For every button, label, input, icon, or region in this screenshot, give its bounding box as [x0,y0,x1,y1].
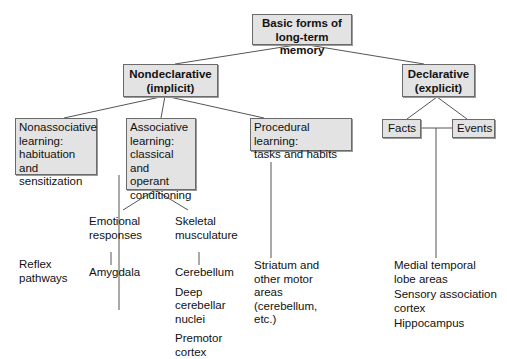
structure-label: cortex [394,302,497,316]
declarative-node: Declarative (explicit) [402,64,475,97]
nondeclarative-node: Nondeclarative (implicit) [123,64,218,97]
node-label: learning: [130,135,192,149]
structure-label: lobe areas [394,273,497,287]
node-label: sensitization [19,175,93,189]
reflex-pathways-text: Reflex pathways [19,258,68,285]
structure-label: Hippocampus [394,317,497,331]
striatum-text: Striatum and other motor areas (cerebell… [254,259,319,327]
structure-label: Amygdala [89,266,140,280]
structure-label: cerebellar [175,299,234,313]
node-label: Basic forms of [253,17,351,31]
node-label: learning: [19,135,93,149]
node-label: operant [130,175,192,189]
declarative-structures-text: Medial temporal lobe areas Sensory assoc… [394,259,497,331]
structure-label: (cerebellum, [254,300,319,314]
structure-label: Premotor [175,332,234,346]
structure-label: Sensory association [394,288,497,302]
structure-label: other motor [254,273,319,287]
node-label: Facts [388,122,415,136]
branch-label: responses [89,229,142,243]
node-label: Associative [130,121,192,135]
node-label: long-term memory [253,31,351,58]
facts-node: Facts [382,119,421,138]
structure-label: Cerebellum [175,266,234,280]
node-label: (implicit) [124,82,217,96]
structure-label: nuclei [175,313,234,327]
node-label: habituation and [19,148,93,175]
emotional-responses-text: Emotional responses [89,215,142,242]
structure-label: pathways [19,272,68,286]
structure-label: Medial temporal [394,259,497,273]
structure-label: etc.) [254,313,319,327]
branch-label: Emotional [89,215,142,229]
procedural-node: Procedural learning: tasks and habits [250,118,352,151]
node-label: Nonassociative [19,121,93,135]
structure-label: Deep [175,286,234,300]
node-label: classical and [130,148,192,175]
node-label: Nondeclarative [124,68,217,82]
node-label: Events [457,122,490,136]
branch-label: Skeletal [175,215,238,229]
root-node: Basic forms of long-term memory [252,14,352,45]
node-label: Declarative [403,68,474,82]
structure-label: areas [254,286,319,300]
amygdala-text: Amygdala [89,266,140,280]
node-label: Procedural learning: [254,121,348,148]
node-label: conditioning [130,189,192,203]
nonassociative-node: Nonassociative learning: habituation and… [15,118,97,175]
events-node: Events [452,119,495,138]
node-label: (explicit) [403,82,474,96]
associative-node: Associative learning: classical and oper… [126,118,196,190]
structure-label: Striatum and [254,259,319,273]
node-label: tasks and habits [254,148,348,162]
branch-label: musculature [175,229,238,243]
structure-label: Reflex [19,258,68,272]
skeletal-musculature-text: Skeletal musculature [175,215,238,242]
skeletal-structures-text: Cerebellum Deep cerebellar nuclei Premot… [175,266,234,359]
structure-label: cortex [175,346,234,359]
